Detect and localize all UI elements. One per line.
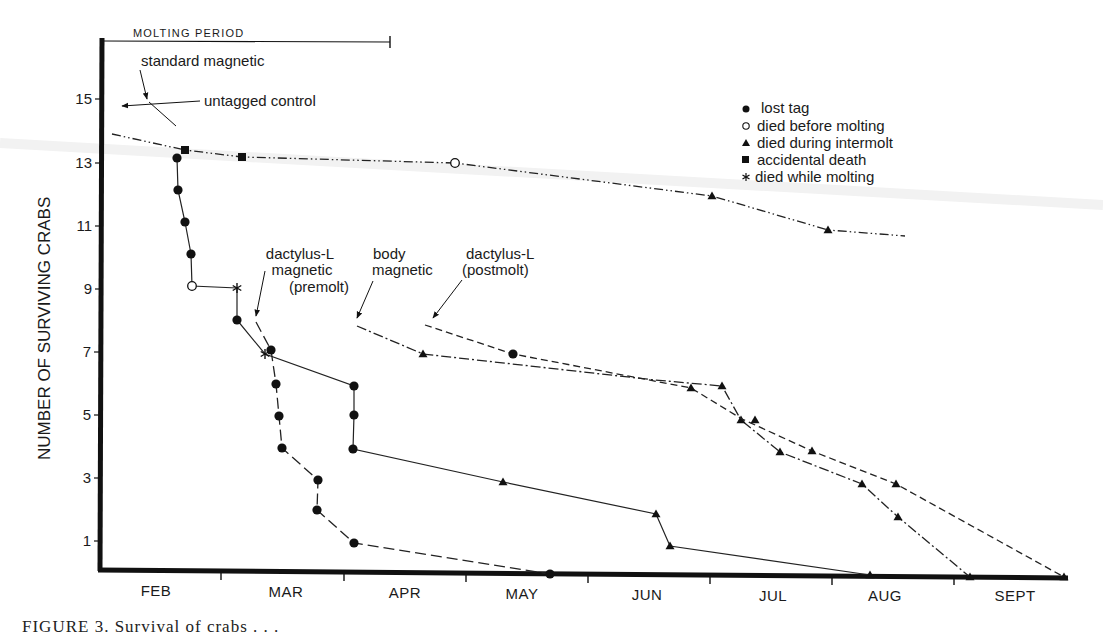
svg-text:died before molting: died before molting bbox=[757, 117, 885, 134]
triangle-icon bbox=[742, 139, 750, 146]
svg-text:APR: APR bbox=[389, 584, 421, 601]
molting-period-bracket: MOLTING PERIOD bbox=[104, 27, 390, 48]
annotation-body-magnetic: body magnetic bbox=[357, 245, 433, 318]
svg-text:magnetic: magnetic bbox=[372, 261, 433, 278]
annotation-dactylus-premolt: dactylus-L magnetic (premolt) bbox=[256, 245, 349, 316]
svg-text:JUL: JUL bbox=[759, 587, 787, 604]
svg-text:3: 3 bbox=[83, 469, 91, 486]
svg-text:MAY: MAY bbox=[506, 585, 539, 602]
legend-item-died-before-molting: died before molting bbox=[743, 117, 885, 134]
svg-text:body: body bbox=[373, 245, 406, 262]
svg-text:(postmolt): (postmolt) bbox=[462, 261, 529, 278]
y-axis bbox=[100, 38, 102, 571]
svg-text:dactylus-L: dactylus-L bbox=[466, 245, 534, 262]
y-axis-label: NUMBER OF SURVIVING CRABS bbox=[35, 197, 54, 460]
legend-item-accidental-death: accidental death bbox=[742, 151, 866, 168]
legend-item-lost-tag: lost tag bbox=[743, 99, 810, 116]
open-circle-icon bbox=[743, 123, 749, 129]
legend-item-died-while-molting: died while molting bbox=[743, 168, 875, 185]
svg-text:5: 5 bbox=[83, 406, 91, 423]
series-body-magnetic bbox=[357, 326, 975, 580]
svg-text:AUG: AUG bbox=[868, 587, 902, 604]
month-labels: FEB MAR APR MAY JUN JUL AUG SEPT bbox=[141, 582, 1036, 604]
annotation-untagged-control: untagged control bbox=[122, 92, 316, 109]
x-axis bbox=[98, 570, 1068, 578]
y-tick-labels: 15 13 11 9 7 5 3 1 bbox=[75, 90, 92, 549]
svg-text:9: 9 bbox=[84, 280, 92, 297]
legend: lost tag died before molting died during… bbox=[742, 99, 894, 185]
svg-text:standard magnetic: standard magnetic bbox=[141, 52, 265, 69]
series-dactylus-postmolt bbox=[425, 325, 1069, 580]
svg-text:15: 15 bbox=[75, 90, 92, 107]
series-standard-magnetic bbox=[172, 153, 874, 578]
svg-text:MAR: MAR bbox=[269, 583, 304, 600]
svg-text:SEPT: SEPT bbox=[994, 587, 1035, 604]
svg-text:died while molting: died while molting bbox=[755, 168, 874, 185]
scan-artifact bbox=[0, 143, 1103, 205]
svg-text:(premolt): (premolt) bbox=[289, 278, 349, 295]
svg-text:accidental death: accidental death bbox=[757, 151, 866, 168]
svg-text:untagged control: untagged control bbox=[204, 92, 316, 109]
svg-text:dactylus-L: dactylus-L bbox=[266, 245, 334, 262]
series-dactylus-premolt bbox=[256, 322, 555, 579]
svg-text:magnetic: magnetic bbox=[272, 261, 333, 278]
svg-text:lost tag: lost tag bbox=[761, 99, 809, 116]
annotation-standard-magnetic: standard magnetic bbox=[140, 52, 265, 126]
svg-text:JUN: JUN bbox=[632, 586, 663, 603]
svg-text:11: 11 bbox=[76, 217, 92, 234]
svg-text:FEB: FEB bbox=[141, 582, 172, 599]
svg-text:13: 13 bbox=[75, 154, 92, 171]
figure-caption: FIGURE 3. Survival of crabs . . . bbox=[22, 617, 279, 636]
svg-text:died during intermolt: died during intermolt bbox=[757, 134, 894, 151]
svg-text:7: 7 bbox=[83, 343, 91, 360]
legend-item-died-during-intermolt: died during intermolt bbox=[742, 134, 894, 151]
svg-text:1: 1 bbox=[83, 532, 91, 549]
filled-circle-icon bbox=[743, 106, 750, 113]
svg-text:MOLTING PERIOD: MOLTING PERIOD bbox=[133, 27, 244, 39]
square-icon bbox=[742, 156, 749, 163]
annotation-dactylus-postmolt: dactylus-L (postmolt) bbox=[433, 245, 534, 318]
